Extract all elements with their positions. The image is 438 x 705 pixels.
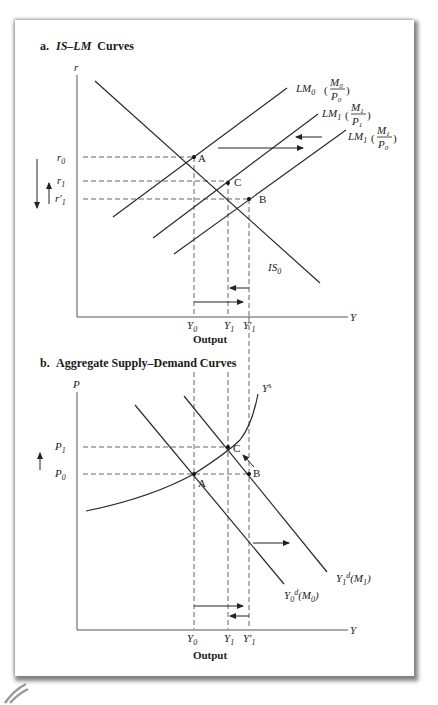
svg-text:P0: P0 xyxy=(377,138,389,152)
point-a-label: A xyxy=(198,152,206,164)
y-axis-label-b: Y xyxy=(350,624,358,636)
supply-curve-label: Ys xyxy=(262,381,271,394)
r-axis-label: r xyxy=(74,61,79,73)
point-a-marker-b xyxy=(192,472,196,476)
point-c-label-b: C xyxy=(233,442,240,454)
r1-prime-tick-label: r′1 xyxy=(55,192,66,207)
output-axis-title-b: Output xyxy=(193,649,228,661)
svg-text:LM0: LM0 xyxy=(295,82,315,97)
demand-0-label: Y0d(M0) xyxy=(284,588,319,604)
svg-text:): ) xyxy=(367,109,371,122)
lm1-p0-curve xyxy=(174,130,346,254)
svg-text:M1: M1 xyxy=(350,101,364,115)
lm1-p0-label: LM1 ( M1 P0 ) xyxy=(347,124,397,152)
panel-a-title: a. IS–LM Curves xyxy=(40,39,134,53)
b-to-c-arrow-icon xyxy=(243,455,254,467)
lm1-p1-label: LM1 ( M1 P1 ) xyxy=(321,101,371,129)
svg-text:P0: P0 xyxy=(330,90,342,104)
svg-text:(: ( xyxy=(324,84,328,97)
p0-tick-label: P0 xyxy=(54,467,66,482)
price-axis-label: P xyxy=(72,378,80,390)
lm0-label: LM0 ( M0 P0 ) xyxy=(295,76,350,104)
p1-tick-label: P1 xyxy=(54,440,66,455)
svg-text:M1: M1 xyxy=(376,124,390,138)
is-lm-ad-as-figure: a. IS–LM Curves r Y A C B IS0 xyxy=(0,0,438,705)
y1-tick-label-a: Y1 xyxy=(224,319,234,334)
point-a-label-b: A xyxy=(198,477,206,489)
point-c-label: C xyxy=(234,176,241,188)
svg-text:LM1: LM1 xyxy=(347,130,367,145)
point-b-label: B xyxy=(259,193,266,205)
r0-tick-label: r0 xyxy=(57,151,65,166)
y0-tick-label-a: Y0 xyxy=(187,319,197,334)
y-axis-label-a: Y xyxy=(350,311,358,323)
r1-tick-label: r1 xyxy=(57,174,65,189)
point-c-marker-b xyxy=(226,445,230,449)
y0-tick-label-b: Y0 xyxy=(187,632,197,647)
aggregate-demand-0-curve xyxy=(135,405,284,584)
y1-tick-label-b: Y1 xyxy=(224,632,234,647)
svg-text:(: ( xyxy=(345,109,349,122)
svg-text:): ) xyxy=(346,84,350,97)
svg-text:(: ( xyxy=(371,132,375,145)
y1-prime-tick-label-b: Y′1 xyxy=(243,632,256,647)
panel-b-ad-as: b. Aggregate Supply–Demand Curves P Y A … xyxy=(40,317,371,661)
pencil-mark-icon xyxy=(5,684,26,703)
svg-text:P1: P1 xyxy=(351,115,362,129)
point-b-marker-b xyxy=(247,472,251,476)
panel-a-is-lm: a. IS–LM Curves r Y A C B IS0 xyxy=(37,39,397,345)
point-b-marker xyxy=(247,197,251,201)
is0-label: IS0 xyxy=(267,261,281,276)
is0-curve xyxy=(95,81,320,283)
svg-text:M0: M0 xyxy=(329,76,343,90)
point-c-marker xyxy=(226,181,230,185)
panel-b-title: b. Aggregate Supply–Demand Curves xyxy=(40,356,237,370)
point-b-label-b: B xyxy=(253,467,260,479)
point-a-marker xyxy=(192,155,196,159)
svg-text:LM1: LM1 xyxy=(321,107,341,122)
demand-1-label: Y1d(M1) xyxy=(336,571,371,587)
svg-text:): ) xyxy=(393,132,397,145)
pencil-mark-icon-2 xyxy=(10,689,28,703)
output-axis-title-a: Output xyxy=(193,333,228,345)
